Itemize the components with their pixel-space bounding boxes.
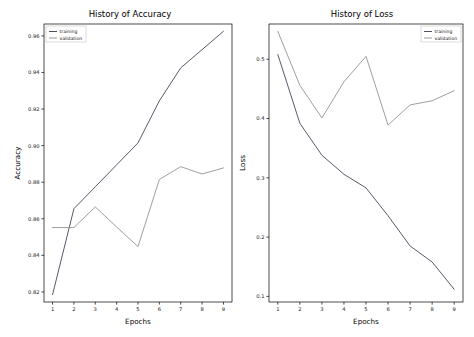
y-axis-ticks-accuracy: 0.820.840.860.880.900.920.940.96 [28,33,44,295]
x-tick-label: 3 [94,306,97,312]
x-tick-label: 5 [364,306,367,312]
legend-label-validation: validation [435,36,458,41]
x-tick-label: 4 [342,306,346,312]
y-tick-label: 0.3 [256,175,264,181]
figure-canvas: History of Accuracy 0.820.840.860.880.90… [0,0,474,337]
chart-title-accuracy: History of Accuracy [89,9,172,19]
x-tick-label: 6 [386,306,389,312]
y-tick-label: 0.1 [256,293,264,299]
legend-label-validation: validation [60,36,83,41]
y-tick-label: 0.88 [28,179,40,185]
y-axis-ticks-loss: 0.10.20.30.40.5 [256,56,269,299]
x-tick-label: 2 [72,306,75,312]
series-line-validation [278,31,454,125]
series-line-training [278,55,454,290]
x-axis-label-loss: Epochs [353,317,379,326]
loss-plot-area: 0.10.20.30.40.5 123456789 trainingvalida… [256,24,463,312]
x-tick-label: 8 [200,306,203,312]
y-tick-label: 0.96 [28,33,40,39]
x-tick-label: 2 [298,306,301,312]
legend-label-training: training [435,29,453,34]
x-axis-ticks-loss: 123456789 [276,302,456,312]
y-axis-label-accuracy: Accuracy [13,146,22,180]
x-axis-label-accuracy: Epochs [125,317,151,326]
chart-panel-accuracy: History of Accuracy 0.820.840.860.880.90… [0,0,237,337]
chart-title-loss: History of Loss [331,9,394,19]
x-axis-ticks-accuracy: 123456789 [51,302,225,312]
x-tick-label: 9 [453,306,456,312]
y-tick-label: 0.86 [28,216,40,222]
x-tick-label: 7 [179,306,182,312]
y-tick-label: 0.94 [28,69,40,75]
y-tick-label: 0.92 [28,106,40,112]
x-tick-label: 8 [430,306,433,312]
y-tick-label: 0.2 [256,234,264,240]
series-group-accuracy [53,31,224,294]
y-axis-label-loss: Loss [238,155,247,171]
x-tick-label: 5 [136,306,139,312]
accuracy-chart-svg: History of Accuracy 0.820.840.860.880.90… [0,0,237,337]
legend-loss: trainingvalidation [421,26,461,42]
legend-label-training: training [60,29,78,34]
y-tick-label: 0.90 [28,143,40,149]
plot-frame-loss [269,24,463,302]
accuracy-plot-area: 0.820.840.860.880.900.920.940.96 1234567… [28,24,232,312]
x-tick-label: 1 [276,306,279,312]
x-tick-label: 9 [222,306,225,312]
loss-chart-svg: History of Loss 0.10.20.30.40.5 12345678… [237,0,474,337]
x-tick-label: 3 [320,306,323,312]
y-tick-label: 0.5 [256,56,264,62]
y-tick-label: 0.4 [256,115,265,121]
plot-frame-accuracy [44,24,232,302]
legend-accuracy: trainingvalidation [46,26,86,42]
x-tick-label: 4 [115,306,119,312]
x-tick-label: 6 [158,306,161,312]
series-line-training [53,31,224,294]
series-group-loss [278,31,454,289]
y-tick-label: 0.82 [28,289,40,295]
y-tick-label: 0.84 [28,252,40,258]
chart-panel-loss: History of Loss 0.10.20.30.40.5 12345678… [237,0,474,337]
series-line-validation [53,167,224,247]
x-tick-label: 7 [408,306,411,312]
x-tick-label: 1 [51,306,54,312]
